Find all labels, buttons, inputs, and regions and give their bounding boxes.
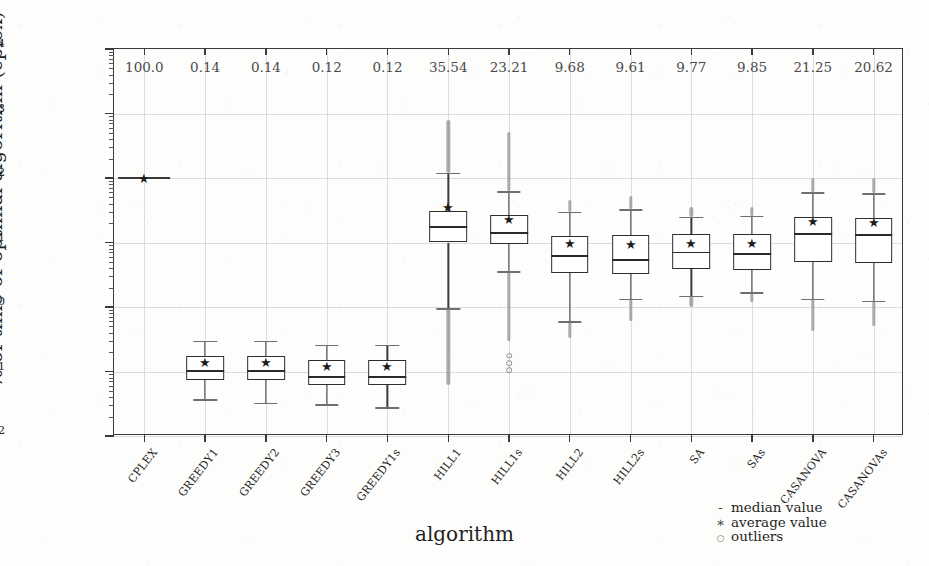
whisker-cap-lower: [740, 292, 763, 294]
median-line: [308, 376, 346, 378]
box-plot-hill1: ★: [418, 49, 479, 434]
whisker-cap-lower: [558, 321, 581, 323]
median-line: [186, 370, 224, 372]
y-tick-exponent: 4: [0, 37, 5, 50]
box-plot-greedy3: ★: [296, 49, 357, 434]
median-line: [794, 233, 832, 235]
whisker-lower: [448, 243, 449, 309]
y-tick-label: 10-1: [0, 360, 5, 381]
box-plot-greedy1: ★: [175, 49, 236, 434]
x-tick: [326, 434, 327, 442]
outlier-cloud-upper: [750, 207, 753, 216]
y-tick-exponent: -1: [0, 360, 5, 373]
x-category-label-casanova: CASANOVA: [778, 446, 830, 507]
legend-label: median value: [731, 500, 822, 515]
mean-star-marker: ★: [138, 172, 150, 185]
y-tick-label: 102: [0, 166, 5, 187]
clipped-caption-remnant: [40, 558, 740, 566]
mean-star-marker: ★: [260, 356, 272, 369]
mean-star-marker: ★: [564, 237, 576, 250]
whisker-lower: [751, 270, 752, 293]
median-dash-glyph: -: [716, 500, 725, 515]
whisker-cap-lower: [437, 308, 460, 310]
x-tick: [691, 434, 692, 442]
whisker-upper: [265, 341, 266, 356]
outlier-cloud-lower: [872, 301, 875, 327]
whisker-upper: [630, 209, 631, 235]
median-line: [672, 252, 710, 254]
outlier-cloud-upper: [811, 178, 814, 192]
y-tick-label: 103: [0, 102, 5, 123]
whisker-cap-lower: [619, 299, 642, 301]
mean-star-marker: ★: [868, 216, 880, 229]
x-tick: [144, 434, 145, 442]
y-tick-major: [105, 371, 114, 372]
x-tick: [630, 434, 631, 442]
y-tick-major: [105, 177, 114, 178]
whisker-upper: [326, 345, 327, 360]
median-line: [429, 226, 467, 228]
whisker-lower: [569, 273, 570, 322]
whisker-upper: [387, 345, 388, 360]
mean-star-marker: ★: [503, 212, 515, 225]
median-line: [612, 259, 650, 261]
whisker-cap-upper: [254, 341, 277, 343]
y-tick-major: [105, 48, 114, 49]
box-plot-cplex: ★: [114, 49, 175, 434]
whisker-cap-upper: [862, 193, 885, 195]
box-plot-sas: ★: [722, 49, 783, 434]
whisker-cap-lower: [680, 296, 703, 298]
x-category-label-greedy2: GREEDY2: [236, 446, 282, 499]
whisker-lower: [387, 385, 388, 407]
box-plot-casanova: ★: [782, 49, 843, 434]
whisker-cap-lower: [801, 299, 824, 301]
plot-area: 100.00.140.140.120.1235.5423.219.689.619…: [113, 48, 903, 435]
x-tick: [204, 434, 205, 442]
box-plot-casanovas: ★: [843, 49, 904, 434]
whisker-lower: [204, 380, 205, 400]
whisker-cap-lower: [254, 403, 277, 405]
median-line: [855, 234, 893, 236]
whisker-cap-upper: [193, 341, 216, 343]
y-tick-exponent: 1: [0, 231, 5, 244]
x-category-label-casanovas: CASANOVAs: [835, 446, 890, 511]
y-tick-label: 101: [0, 231, 5, 252]
whisker-cap-upper: [376, 345, 399, 347]
y-tick-major: [105, 242, 114, 243]
mean-star-marker: ★: [381, 360, 393, 373]
mean-star-marker: ★: [746, 236, 758, 249]
outlier-point: [506, 367, 512, 373]
y-tick-exponent: 2: [0, 166, 5, 179]
x-category-label-hill1: HILL1: [432, 446, 465, 483]
outlier-cloud-upper: [447, 120, 450, 173]
outlier-cloud-lower: [507, 271, 510, 341]
y-tick-major: [105, 113, 114, 114]
outlier-cloud-upper: [872, 178, 875, 193]
outlier-circle-glyph: ○: [716, 531, 725, 546]
whisker-upper: [204, 341, 205, 356]
x-tick: [448, 434, 449, 442]
median-line: [733, 253, 771, 255]
outlier-cloud-lower: [811, 299, 814, 332]
x-tick: [265, 434, 266, 442]
whisker-cap-upper: [619, 209, 642, 211]
y-tick-label: 100: [0, 295, 5, 316]
outlier-cloud-upper: [690, 207, 693, 217]
x-category-label-sas: SAs: [745, 446, 769, 471]
outlier-cloud-upper: [568, 200, 571, 212]
median-line: [247, 370, 285, 372]
mean-star-marker: ★: [807, 215, 819, 228]
whisker-cap-upper: [558, 212, 581, 214]
outlier-point: [506, 360, 512, 366]
median-line: [490, 232, 528, 234]
whisker-cap-lower: [497, 271, 520, 273]
x-category-label-hill2: HILL2: [553, 446, 586, 483]
box-plot-greedy1s: ★: [357, 49, 418, 434]
x-category-label-hill2s: HILL2s: [610, 446, 646, 487]
outlier-cloud-lower: [568, 321, 571, 338]
x-tick: [508, 434, 509, 442]
x-category-label-cplex: CPLEX: [126, 446, 161, 486]
whisker-cap-upper: [680, 217, 703, 219]
x-category-label-greedy3: GREEDY3: [297, 446, 343, 499]
mean-star-marker: ★: [685, 237, 697, 250]
